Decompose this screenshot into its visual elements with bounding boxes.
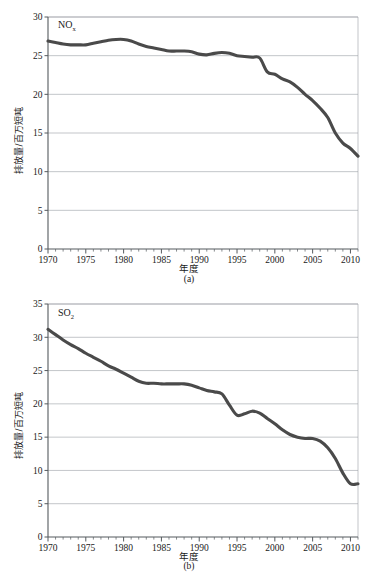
x-tick-label: 1970 (39, 255, 58, 265)
x-axis-title-a: 年度 (179, 263, 199, 274)
x-tick-label: 1980 (114, 255, 133, 265)
y-tick-label: 20 (33, 90, 43, 100)
x-tick-label: 2005 (303, 543, 322, 553)
gridlines-a (48, 17, 358, 249)
y-tick-label: 0 (38, 532, 43, 542)
y-tick-label: 30 (33, 333, 43, 343)
series-line-nox (48, 39, 358, 156)
axes-b (48, 304, 358, 537)
y-tick-label: 20 (33, 399, 43, 409)
chart-a-canvas: 0510152025301970197519801985199019952000… (0, 0, 378, 290)
chart-a-svg: 0510152025301970197519801985199019952000… (0, 0, 378, 290)
series-group-a (48, 39, 358, 156)
ticks-a (45, 17, 359, 254)
panel-caption-a: (a) (0, 274, 378, 284)
x-tick-label: 1995 (228, 255, 247, 265)
y-axis-title-b: 排放量/百万短吨 (12, 392, 25, 458)
series-annotation-nox: NOx (58, 19, 76, 32)
y-tick-label: 5 (38, 499, 43, 509)
x-tick-label: 2005 (303, 255, 322, 265)
x-tick-label: 1985 (152, 543, 171, 553)
y-tick-label: 15 (33, 432, 43, 442)
chart-b-canvas: 0510152025303519701975198019851990199520… (0, 290, 378, 577)
y-tick-label: 25 (33, 366, 43, 376)
y-tick-label: 15 (33, 128, 43, 138)
y-tick-label: 25 (33, 51, 43, 61)
figure-container: 0510152025301970197519801985199019952000… (0, 0, 378, 577)
y-tick-label: 5 (38, 206, 43, 216)
x-tick-label: 1975 (76, 255, 95, 265)
x-tick-label: 1970 (39, 543, 58, 553)
y-axis-title-a-wrap: 排放量/百万短吨 (11, 80, 25, 200)
x-tick-label: 2010 (341, 543, 360, 553)
series-line-so2 (48, 329, 358, 484)
x-tick-label: 2010 (341, 255, 360, 265)
y-axis-title-a: 排放量/百万短吨 (12, 107, 25, 173)
chart-panel-a: 0510152025301970197519801985199019952000… (0, 0, 378, 290)
x-tick-label: 1985 (152, 255, 171, 265)
y-tick-label: 35 (33, 299, 43, 309)
ticks-b (45, 304, 359, 542)
series-annotation-so2: SO2 (58, 307, 74, 320)
tick-labels-a: 0510152025301970197519801985199019952000… (33, 12, 360, 265)
y-tick-label: 10 (33, 167, 43, 177)
gridlines-b (48, 304, 358, 537)
x-tick-label: 1975 (76, 543, 95, 553)
y-tick-label: 30 (33, 12, 43, 22)
x-tick-label: 1995 (228, 543, 247, 553)
y-axis-title-b-wrap: 排放量/百万短吨 (11, 365, 25, 485)
y-tick-label: 10 (33, 466, 43, 476)
chart-b-svg: 0510152025303519701975198019851990199520… (0, 290, 378, 577)
x-tick-label: 1980 (114, 543, 133, 553)
x-tick-label: 2000 (265, 255, 284, 265)
x-tick-label: 2000 (265, 543, 284, 553)
chart-panel-b: 0510152025303519701975198019851990199520… (0, 290, 378, 577)
y-tick-label: 0 (38, 244, 43, 254)
panel-caption-b: (b) (0, 561, 378, 571)
series-group-b (48, 329, 358, 484)
